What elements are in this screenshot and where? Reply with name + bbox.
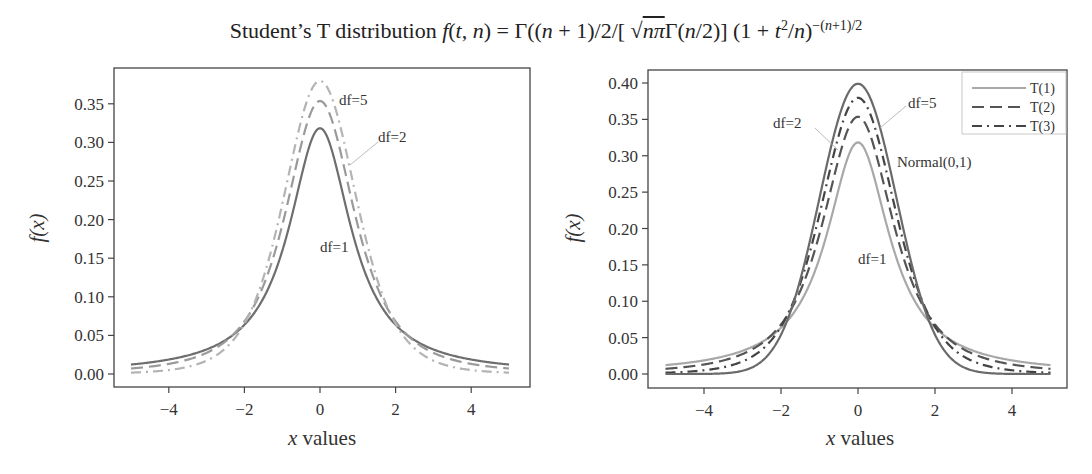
right-y-axis-title: f(x) (561, 213, 585, 242)
y-tick-label: 0.05 (74, 326, 104, 345)
y-tick-label: 0.20 (608, 220, 638, 239)
right-plot: 0.000.050.100.150.200.250.300.350.40 −4−… (561, 70, 1067, 450)
y-tick-label: 0.20 (74, 211, 104, 230)
right-label-df1: df=1 (858, 251, 886, 267)
legend-label-t2: T(2) (1030, 100, 1055, 116)
left-y-axis-title: f(x) (25, 213, 49, 242)
left-plot-frame (114, 68, 530, 387)
x-tick-label: 0 (854, 401, 863, 420)
y-tick-label: 0.15 (74, 249, 104, 268)
y-tick-label: 0.25 (608, 183, 638, 202)
curve-t-3- (666, 98, 1051, 373)
y-tick-label: 0.05 (608, 329, 638, 348)
x-tick-label: 4 (467, 400, 476, 419)
x-tick-label: −2 (235, 400, 253, 419)
y-tick-label: 0.10 (608, 292, 638, 311)
left-label-df1: df=1 (320, 239, 348, 255)
left-plot: 0.000.050.100.150.200.250.300.35 −4−2024… (25, 68, 530, 450)
x-tick-label: 4 (1008, 401, 1017, 420)
left-x-axis-title: x values (287, 426, 356, 450)
y-tick-label: 0.10 (74, 288, 104, 307)
x-tick-label: −2 (772, 401, 790, 420)
right-label-df5: df=5 (908, 95, 936, 111)
x-tick-label: 2 (391, 400, 400, 419)
right-x-axis: −4−2024 (695, 388, 1017, 420)
left-x-axis: −4−2024 (160, 387, 476, 419)
legend: T(1) T(2) T(3) (962, 72, 1066, 135)
x-tick-label: 0 (316, 400, 325, 419)
left-label-df5: df=5 (339, 92, 367, 108)
chart-canvas: 0.000.050.100.150.200.250.300.35 −4−2024… (0, 0, 1092, 474)
y-tick-label: 0.00 (74, 365, 104, 384)
right-label-df2: df=2 (773, 115, 801, 131)
x-tick-label: −4 (695, 401, 714, 420)
right-y-axis: 0.000.050.100.150.200.250.300.350.40 (608, 74, 648, 384)
right-label-normal: Normal(0,1) (897, 154, 972, 171)
y-tick-label: 0.30 (608, 147, 638, 166)
left-label-df2: df=2 (378, 129, 406, 145)
curve-df-2 (131, 101, 509, 368)
y-tick-label: 0.40 (608, 74, 638, 93)
left-curves (131, 81, 509, 373)
y-tick-label: 0.00 (608, 365, 638, 384)
left-y-axis: 0.000.050.100.150.200.250.300.35 (74, 95, 114, 384)
left-leader-df2 (350, 142, 378, 165)
x-tick-label: 2 (931, 401, 940, 420)
y-tick-label: 0.25 (74, 172, 104, 191)
y-tick-label: 0.35 (608, 110, 638, 129)
legend-label-t3: T(3) (1030, 119, 1055, 135)
right-leader-df5 (880, 106, 906, 128)
curve-t-2- (666, 117, 1051, 369)
x-tick-label: −4 (160, 400, 179, 419)
y-tick-label: 0.30 (74, 133, 104, 152)
legend-label-t1: T(1) (1030, 81, 1055, 97)
curve-df-5 (131, 81, 509, 373)
y-tick-label: 0.35 (74, 95, 104, 114)
right-x-axis-title: x values (825, 426, 894, 450)
y-tick-label: 0.15 (608, 256, 638, 275)
